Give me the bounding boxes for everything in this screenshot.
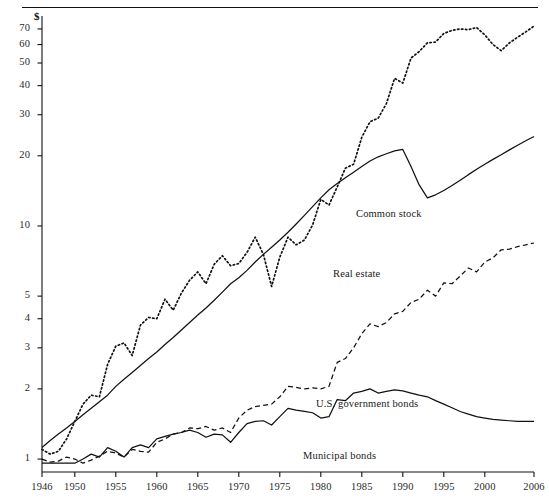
x-tick-label: 1965 [178,481,218,492]
y-tick-label: 20 [4,149,30,160]
y-tick-label: 3 [4,341,30,352]
x-tick-label: 1995 [424,481,464,492]
x-tick-label: 1960 [137,481,177,492]
y-tick-label: 60 [4,38,30,49]
x-tick-label: 1980 [301,481,341,492]
y-tick-label: 2 [4,382,30,393]
series-line-u-s-government-bonds [42,243,534,463]
series-line-municipal-bonds [42,389,534,463]
y-tick-label: 5 [4,289,30,300]
x-tick-label: 2006 [514,481,549,492]
series-line-real-estate [42,136,534,447]
series-label-government-bonds: U.S. government bonds [316,398,418,409]
x-tick-label: 2000 [465,481,505,492]
series-line-common-stock [42,26,534,454]
series-group [42,26,534,463]
x-tick-label: 1975 [260,481,300,492]
y-tick-label: 4 [4,312,30,323]
series-label-municipal-bonds: Municipal bonds [303,450,376,461]
y-tick-label: 10 [4,219,30,230]
y-tick-label: 1 [4,452,30,463]
series-label-common-stock: Common stock [356,208,422,219]
y-tick-label: 50 [4,56,30,67]
x-tick-label: 1955 [96,481,136,492]
x-tick-label: 1990 [383,481,423,492]
series-label-real-estate: Real estate [333,268,380,279]
x-tick-label: 1950 [55,481,95,492]
y-tick-label: 40 [4,79,30,90]
x-tick-label: 1970 [219,481,259,492]
y-tick-label: 30 [4,108,30,119]
y-tick-label: 70 [4,22,30,33]
axes-group [38,16,535,477]
x-tick-label: 1985 [342,481,382,492]
